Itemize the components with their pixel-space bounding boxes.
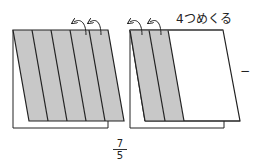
- flip-annotation: 4つめくる: [176, 9, 232, 26]
- left-figure: [13, 21, 124, 128]
- fraction: 7 5: [112, 138, 128, 161]
- fraction-numerator: 7: [112, 138, 128, 149]
- fraction-denominator: 5: [112, 150, 128, 161]
- left-shaded-sheet: [13, 30, 124, 121]
- fraction-diagram: 4つめくる − 7 5: [0, 0, 255, 165]
- right-figure: [130, 21, 240, 128]
- minus-sign: −: [240, 64, 250, 78]
